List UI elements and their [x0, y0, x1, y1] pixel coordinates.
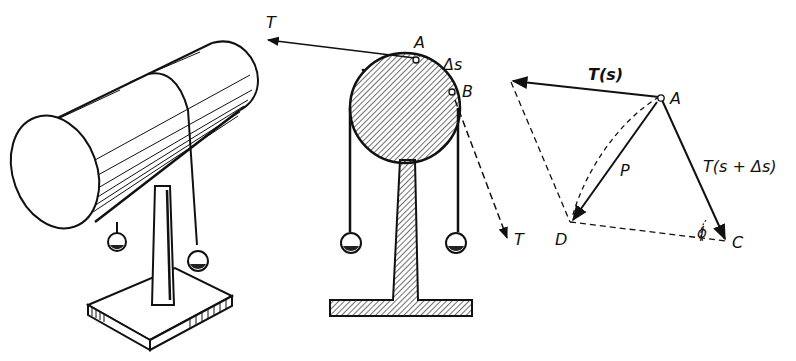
label-delta-s: Δs	[441, 55, 462, 74]
label-force-point-a: A	[669, 89, 681, 108]
label-point-d: D	[555, 230, 567, 249]
label-point-b: B	[462, 82, 473, 101]
vector-p	[573, 102, 657, 220]
label-t-s-ds: T(s + Δs)	[703, 157, 776, 176]
label-point-c: C	[732, 233, 744, 252]
cross-section-panel: T A Δs B T	[266, 13, 525, 316]
label-tension-right: T	[514, 230, 525, 249]
label-tension-left: T	[266, 13, 277, 32]
perspective-cylinder-panel	[0, 40, 258, 350]
label-angle-phi: ϕ	[697, 224, 707, 242]
cylinder	[0, 40, 258, 245]
label-point-a: A	[413, 33, 425, 52]
weight-right	[188, 251, 208, 271]
tension-arrow-left	[268, 40, 415, 58]
point-b-marker	[449, 89, 455, 95]
physics-diagram: T A Δs B T T(s) A T(s + Δs) P D C ϕ	[0, 0, 796, 361]
cross-weight-left	[341, 233, 361, 253]
tension-arrow-right	[455, 100, 507, 238]
cross-weight-right	[446, 233, 466, 253]
weight-left	[108, 233, 126, 251]
point-a-marker	[413, 57, 419, 63]
label-p: P	[620, 161, 630, 180]
force-point-a	[658, 95, 664, 101]
force-diagram-panel: T(s) A T(s + Δs) P D C ϕ	[511, 65, 776, 252]
label-t-s: T(s)	[588, 65, 623, 84]
vector-t-s	[513, 81, 659, 97]
